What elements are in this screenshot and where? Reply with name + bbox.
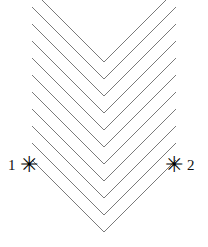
asterisk-marker-1-icon: ✳: [20, 154, 38, 176]
marker-1-label: 1: [8, 158, 16, 173]
chevron-polyline: [32, 160, 176, 232]
chevron-polyline: [32, 7, 176, 79]
chevron-line-drawing: [0, 0, 208, 247]
chevron-polyline: [32, 109, 176, 181]
marker-2-group: ✳ 2: [165, 154, 195, 176]
chevron-polyline: [32, 143, 176, 215]
chevron-polyline: [32, 92, 176, 164]
chevron-polyline: [32, 41, 176, 113]
chevron-polyline-group: [32, 0, 176, 232]
marker-1-group: 1 ✳: [8, 154, 38, 176]
chevron-figure: 1 ✳ ✳ 2: [0, 0, 208, 247]
marker-2-label: 2: [187, 158, 195, 173]
chevron-polyline: [32, 75, 176, 147]
asterisk-marker-2-icon: ✳: [165, 154, 183, 176]
chevron-polyline: [32, 24, 176, 96]
chevron-polyline: [32, 58, 176, 130]
chevron-polyline: [32, 126, 176, 198]
